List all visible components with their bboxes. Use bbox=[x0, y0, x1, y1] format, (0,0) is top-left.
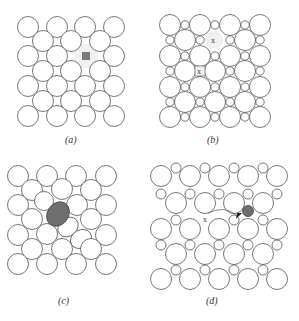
panel-b-x-marker-1: x bbox=[211, 36, 215, 45]
panel-b-label: (b) bbox=[207, 134, 219, 145]
diffusing-dark-atom bbox=[243, 206, 254, 217]
panel-c-lattice bbox=[8, 166, 117, 275]
panel-c-label: (c) bbox=[58, 295, 69, 306]
panel-d-label: (d) bbox=[206, 295, 218, 306]
panel-d-lattice bbox=[151, 163, 288, 290]
vacancy-marker bbox=[82, 52, 90, 60]
diagram-canvas: x x x bbox=[0, 0, 299, 321]
panel-a-lattice bbox=[18, 17, 125, 127]
panel-b-lattice bbox=[160, 15, 271, 128]
panel-b-x-marker-2: x bbox=[197, 67, 201, 76]
panel-d-x-marker: x bbox=[203, 215, 207, 224]
panel-a-label: (a) bbox=[65, 134, 77, 145]
